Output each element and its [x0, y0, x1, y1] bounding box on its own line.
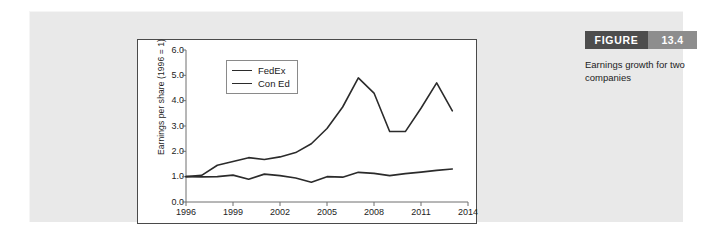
x-tick-label: 1996 [176, 208, 196, 217]
legend-line-swatch-fedex [232, 70, 252, 71]
figure-panel: Earnings per share (1996 = 1) 0.01.02.03… [29, 11, 683, 222]
legend-item-coned: Con Ed [232, 77, 290, 90]
legend-line-swatch-coned [232, 83, 252, 84]
figure-header-band: FIGURE 13.4 [585, 31, 697, 49]
chart-lines-svg [138, 40, 476, 223]
figure-number: 13.4 [648, 31, 697, 49]
legend-label-fedex: FedEx [258, 66, 285, 76]
legend-label-coned: Con Ed [258, 79, 290, 89]
x-tick-label: 2008 [364, 208, 384, 217]
x-tick-label: 2002 [270, 208, 290, 217]
chart-legend: FedEx Con Ed [226, 60, 298, 94]
x-tick-label: 2011 [411, 208, 430, 217]
figure-caption-text: Earnings growth for two companies [585, 58, 697, 85]
chart-axes [182, 50, 468, 206]
x-tick-label: 2005 [317, 208, 337, 217]
figure-caption-block: FIGURE 13.4 Earnings growth for two comp… [585, 31, 697, 85]
x-axis-tick-labels: 1996199920022005200820112014 [138, 208, 476, 220]
chart-card: Earnings per share (1996 = 1) 0.01.02.03… [137, 39, 477, 224]
chart-plot-region: Earnings per share (1996 = 1) 0.01.02.03… [138, 40, 476, 223]
figure-label-word: FIGURE [585, 31, 648, 49]
series-line-con-ed [186, 169, 452, 182]
legend-item-fedex: FedEx [232, 64, 290, 77]
x-tick-label: 1999 [223, 208, 243, 217]
x-tick-label: 2014 [458, 208, 478, 217]
